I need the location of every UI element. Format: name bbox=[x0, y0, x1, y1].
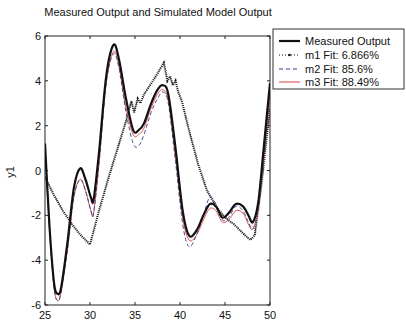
y-axis-label: y1 bbox=[4, 166, 16, 178]
chart: Measured Output and Simulated Model Outp… bbox=[0, 0, 406, 335]
x-tick-label: 30 bbox=[84, 309, 96, 321]
legend-label-measured: Measured Output bbox=[305, 35, 390, 47]
x-tick-label: 45 bbox=[219, 309, 231, 321]
y-tick-label: 2 bbox=[35, 120, 41, 132]
legend-label-m2: m2 Fit: 85.6% bbox=[305, 63, 373, 75]
legend: Measured Output m1 Fit: 6.866% m2 Fit: 8… bbox=[273, 29, 404, 89]
legend-label-m3: m3 Fit: 88.49% bbox=[305, 76, 379, 88]
y-tick-label: -2 bbox=[31, 209, 41, 221]
y-tick-label: -6 bbox=[31, 299, 41, 311]
y-tick-label: 0 bbox=[35, 165, 41, 177]
x-tick-label: 50 bbox=[264, 309, 276, 321]
x-tick-label: 35 bbox=[129, 309, 141, 321]
legend-marker-m1 bbox=[288, 54, 291, 57]
y-tick-label: 4 bbox=[35, 75, 41, 87]
y-tick-label: -4 bbox=[31, 254, 41, 266]
x-tick-label: 40 bbox=[174, 309, 186, 321]
chart-title: Measured Output and Simulated Model Outp… bbox=[44, 6, 271, 18]
legend-label-m1: m1 Fit: 6.866% bbox=[305, 49, 379, 61]
y-tick-label: 6 bbox=[35, 30, 41, 42]
